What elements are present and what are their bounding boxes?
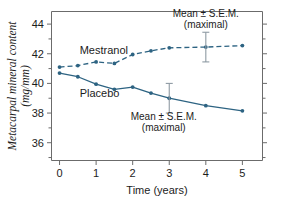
data-point-mestranol	[76, 64, 80, 68]
annotation-mestranol-line2: (maximal)	[184, 19, 228, 30]
data-point-placebo	[131, 85, 135, 89]
y-axis-title-line2: (mg/mm)	[19, 65, 32, 107]
series-label-mestranol: Mestranol	[80, 44, 128, 56]
data-point-placebo	[58, 71, 62, 75]
axis-tick-labels: 3638404244012345	[32, 18, 246, 178]
series-label-placebo: Placebo	[80, 87, 120, 99]
chart-figure: 3638404244012345 MestranolPlacebo Mean ±…	[0, 0, 291, 211]
y-tick-label: 36	[32, 137, 44, 149]
x-tick-label: 2	[130, 167, 136, 179]
data-point-mestranol	[149, 49, 153, 53]
y-tick-label: 38	[32, 107, 44, 119]
data-point-placebo	[204, 104, 208, 108]
y-tick-label: 44	[32, 18, 44, 30]
plot-frame	[52, 12, 263, 161]
data-point-placebo	[149, 91, 153, 95]
data-point-mestranol	[58, 65, 62, 69]
chart-annotations: Mean ± S.E.M.(maximal)Mean ± S.E.M.(maxi…	[131, 8, 239, 134]
x-tick-label: 5	[239, 167, 245, 179]
annotation-mestranol-line1: Mean ± S.E.M.	[173, 8, 239, 19]
data-point-mestranol	[131, 53, 135, 57]
data-point-placebo	[76, 75, 80, 79]
y-tick-label: 40	[32, 77, 44, 89]
data-point-mestranol	[113, 61, 117, 65]
y-axis-title-line1: Metacarpal mineral content	[6, 21, 19, 152]
x-tick-label: 1	[93, 167, 99, 179]
data-point-placebo	[94, 82, 98, 86]
data-point-mestranol	[94, 60, 98, 64]
x-tick-label: 3	[166, 167, 172, 179]
series-labels: MestranolPlacebo	[80, 44, 128, 99]
x-axis-title: Time (years)	[126, 184, 187, 196]
x-tick-label: 0	[56, 167, 62, 179]
x-tick-label: 4	[203, 167, 209, 179]
data-point-mestranol	[240, 44, 244, 48]
line-chart: 3638404244012345 MestranolPlacebo Mean ±…	[0, 0, 291, 211]
data-point-placebo	[240, 109, 244, 113]
annotation-placebo-line1: Mean ± S.E.M.	[131, 111, 197, 122]
error-bars	[166, 32, 210, 113]
annotation-placebo-line2: (maximal)	[142, 122, 186, 133]
y-tick-label: 42	[32, 48, 44, 60]
data-point-mestranol	[167, 46, 171, 50]
plot-border	[52, 12, 263, 161]
